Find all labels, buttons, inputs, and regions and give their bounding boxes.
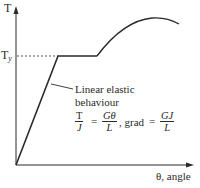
eq2-denominator: L xyxy=(105,122,113,133)
eq-fraction-gj-over-l: GJ L xyxy=(160,110,174,133)
eq2-numerator: Gθ xyxy=(102,110,117,122)
yield-torque-label-sub: y xyxy=(8,54,12,63)
x-axis-label: θ, angle xyxy=(156,170,191,182)
eq-equals-2: = xyxy=(149,115,155,127)
eq1-denominator: J xyxy=(76,122,83,133)
annotation-line2: behaviour xyxy=(75,96,119,108)
annotation-leader-line xyxy=(51,84,73,89)
annotation-line1: Linear elastic xyxy=(75,83,135,95)
eq-equals-1: = xyxy=(91,115,97,127)
eq-grad-label: , grad xyxy=(119,116,144,128)
eq1-numerator: T xyxy=(75,110,83,122)
eq3-numerator: GJ xyxy=(160,110,174,122)
y-axis-arrow-icon xyxy=(14,6,19,14)
eq-fraction-gtheta-over-l: Gθ L xyxy=(102,110,117,133)
torque-curve-linear xyxy=(16,56,97,165)
eq-fraction-t-over-j: T J xyxy=(75,110,83,133)
x-axis-arrow-icon xyxy=(186,163,194,168)
torque-curve-hardening xyxy=(97,18,179,56)
eq3-denominator: L xyxy=(163,122,171,133)
y-axis-label: T xyxy=(4,2,11,14)
yield-torque-label: Ty xyxy=(1,49,12,65)
